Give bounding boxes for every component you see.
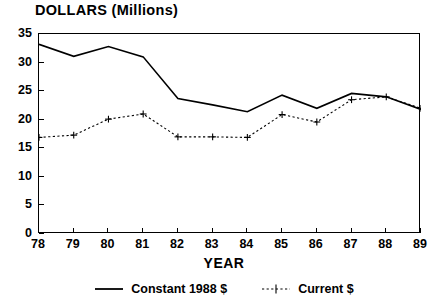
legend-label-constant-1988: Constant 1988 $: [131, 282, 227, 296]
series-line-constant-1988: [39, 44, 421, 111]
y-tick-label: 15: [2, 141, 32, 154]
x-tick-label: 86: [303, 238, 329, 251]
x-axis-label: YEAR: [0, 255, 448, 271]
x-tick-label: 79: [60, 238, 86, 251]
chart-legend: Constant 1988 $ Current $: [0, 282, 448, 296]
y-tick-label: 35: [2, 27, 32, 40]
chart-figure: DOLLARS (Millions) 05101520253035 787980…: [0, 0, 448, 305]
x-tick-label: 88: [372, 238, 398, 251]
legend-item-current: Current $: [261, 282, 354, 296]
y-tick-label: 5: [2, 198, 32, 211]
solid-line-swatch: [94, 283, 124, 295]
x-tick-label: 82: [164, 238, 190, 251]
series-canvas: [39, 34, 421, 234]
x-tick-label: 81: [129, 238, 155, 251]
x-tick-label: 87: [338, 238, 364, 251]
x-tick-label: 84: [233, 238, 259, 251]
x-tick-label: 89: [407, 238, 433, 251]
x-tick-label: 83: [199, 238, 225, 251]
y-tick-label: 20: [2, 113, 32, 126]
y-tick-label: 30: [2, 56, 32, 69]
y-tick-label: 25: [2, 84, 32, 97]
series-line-current: [39, 97, 421, 138]
x-tick-label: 85: [268, 238, 294, 251]
legend-item-constant-1988: Constant 1988 $: [94, 282, 227, 296]
dotted-plus-swatch: [261, 283, 291, 295]
series-markers-current: [39, 93, 421, 140]
chart-title: DOLLARS (Millions): [35, 2, 178, 18]
y-tick-label: 10: [2, 170, 32, 183]
plot-area: [38, 33, 420, 233]
x-tick-label: 80: [94, 238, 120, 251]
legend-label-current: Current $: [298, 282, 354, 296]
x-tick-label: 78: [25, 238, 51, 251]
